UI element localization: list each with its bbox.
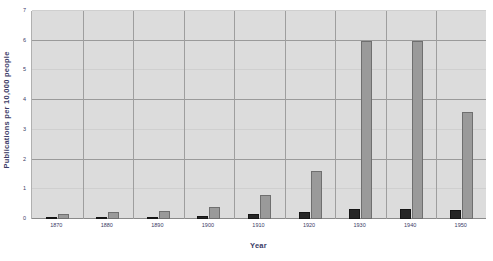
x-tick-label: 1940 (385, 222, 436, 228)
bar (108, 212, 119, 219)
x-tick-label: 1910 (233, 222, 284, 228)
bar (361, 41, 372, 219)
y-tick-label: 4 (2, 96, 26, 102)
bar (46, 217, 57, 219)
bar (349, 209, 360, 219)
bar (96, 217, 107, 219)
bar-group (436, 11, 487, 219)
bar (450, 210, 461, 220)
x-tick-label: 1930 (334, 222, 385, 228)
x-tick-label: 1950 (435, 222, 486, 228)
bar-group (335, 11, 386, 219)
plot-inner (32, 11, 486, 219)
x-tick-label: 1890 (132, 222, 183, 228)
x-tick-label: 1880 (82, 222, 133, 228)
bar-group (83, 11, 134, 219)
bar (400, 209, 411, 219)
x-axis-tick-labels: 187018801890190019101920193019401950 (31, 222, 486, 236)
bar-group (133, 11, 184, 219)
bar (260, 195, 271, 219)
x-tick-label: 1920 (284, 222, 335, 228)
bar (412, 41, 423, 219)
bar (58, 214, 69, 219)
bar (299, 212, 310, 219)
bar-group (234, 11, 285, 219)
bar (248, 214, 259, 219)
bar (209, 207, 220, 219)
bar-group (32, 11, 83, 219)
y-tick-label: 7 (2, 7, 26, 13)
plot-area (31, 11, 486, 219)
y-tick-label: 5 (2, 66, 26, 72)
x-axis-title: Year (31, 241, 486, 250)
y-tick-label: 3 (2, 126, 26, 132)
bar-group (285, 11, 336, 219)
y-tick-label: 6 (2, 37, 26, 43)
x-tick-label: 1870 (31, 222, 82, 228)
bar (159, 211, 170, 219)
y-tick-label: 0 (2, 215, 26, 221)
bar-group (386, 11, 437, 219)
bar (147, 217, 158, 219)
bar (311, 171, 322, 219)
x-tick-label: 1900 (183, 222, 234, 228)
y-axis-tick-labels: 01234567 (0, 0, 29, 261)
bar-chart: Publications per 10,000 people 01234567 … (0, 0, 493, 261)
y-tick-label: 1 (2, 185, 26, 191)
bar (197, 216, 208, 219)
y-tick-label: 2 (2, 156, 26, 162)
bar (462, 112, 473, 219)
bar-group (184, 11, 235, 219)
